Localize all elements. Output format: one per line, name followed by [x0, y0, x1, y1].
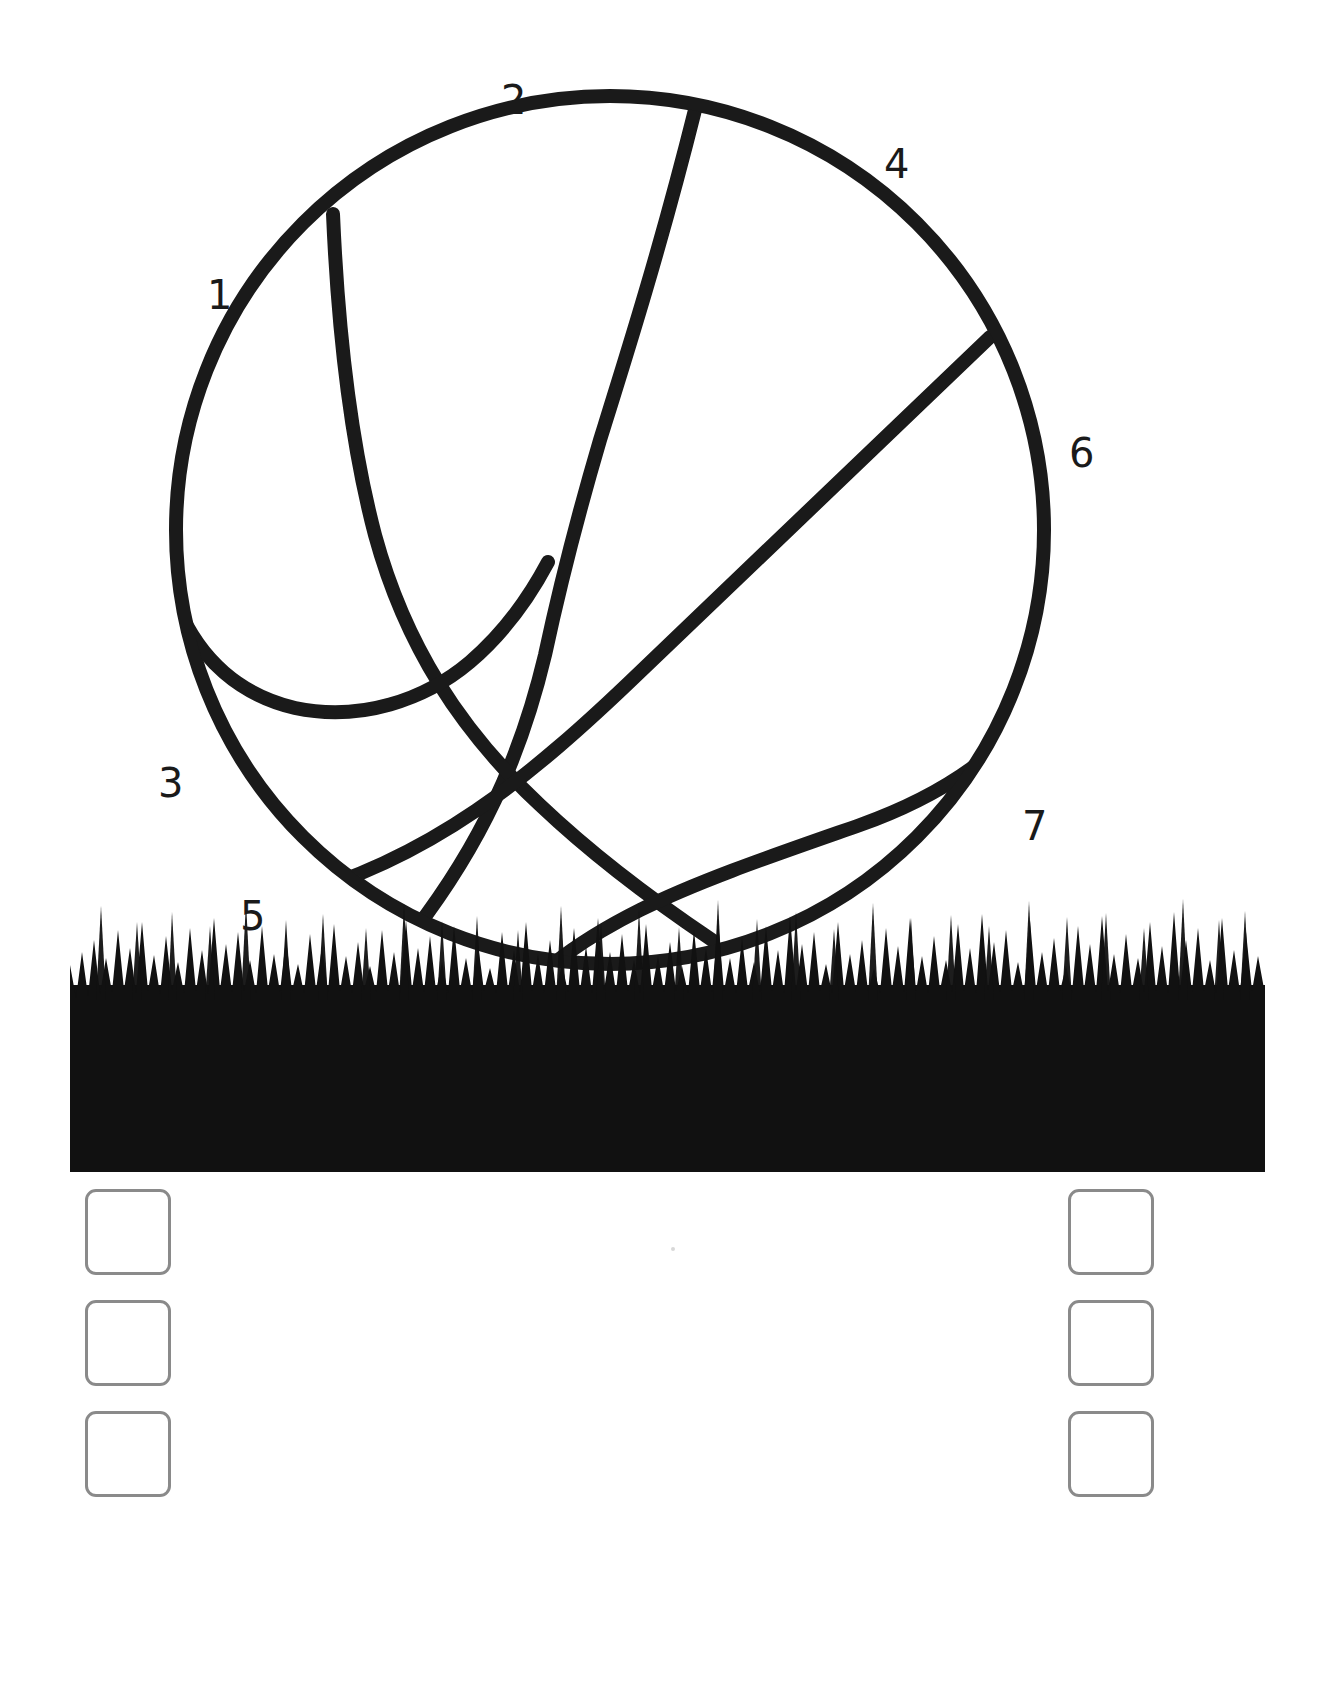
page-speck: [671, 1247, 675, 1251]
region-label-2: 2: [501, 80, 526, 120]
region-label-4: 4: [884, 144, 909, 184]
worksheet-page: 1 2 3 4 5 6 7: [0, 0, 1330, 1689]
swatch-right-3[interactable]: [1068, 1411, 1154, 1497]
region-label-6: 6: [1069, 433, 1094, 473]
region-label-3: 3: [158, 763, 183, 803]
swatch-left-2[interactable]: [85, 1300, 171, 1386]
region-label-1: 1: [207, 275, 232, 315]
swatch-right-2[interactable]: [1068, 1300, 1154, 1386]
swatch-right-1[interactable]: [1068, 1189, 1154, 1275]
swatch-left-1[interactable]: [85, 1189, 171, 1275]
swatch-left-3[interactable]: [85, 1411, 171, 1497]
grass-base-slab: [70, 985, 1265, 1172]
region-label-7: 7: [1022, 806, 1047, 846]
grass-group: [70, 899, 1265, 1172]
region-label-5: 5: [240, 896, 265, 936]
